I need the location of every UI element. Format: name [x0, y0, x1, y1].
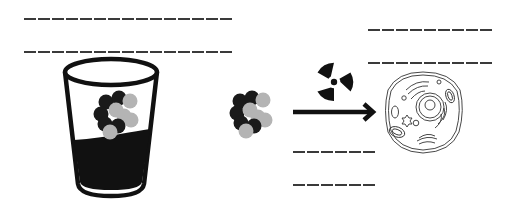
- arrow-right-icon: [292, 101, 378, 123]
- animal-cell-icon: [383, 70, 465, 155]
- molecule-cluster-icon: [228, 89, 274, 139]
- blank-line-top-right-2: [368, 62, 492, 64]
- blank-line-top-left-1: [24, 18, 234, 20]
- blank-line-bottom-2: [293, 184, 377, 186]
- radiation-trefoil-icon: [314, 62, 354, 102]
- blank-line-top-right-1: [368, 29, 492, 31]
- blank-line-bottom-1: [293, 151, 377, 153]
- blank-line-top-left-2: [24, 51, 234, 53]
- glass-with-liquid-icon: [60, 56, 162, 202]
